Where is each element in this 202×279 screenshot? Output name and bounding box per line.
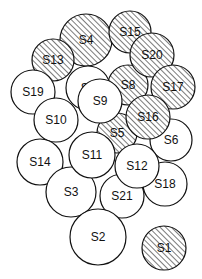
circle-label: S8: [121, 78, 136, 92]
circle-label: S12: [126, 159, 148, 173]
circle-s2: S2: [70, 209, 126, 265]
circle-label: S16: [137, 110, 159, 124]
circle-s11: S11: [69, 132, 115, 178]
circle-label: S3: [64, 185, 79, 199]
circle-label: S18: [154, 177, 176, 191]
circle-label: S9: [93, 94, 108, 108]
circle-s12: S12: [115, 144, 159, 188]
circle-label: S20: [141, 48, 163, 62]
circle-label: S15: [119, 25, 141, 39]
circle-label: S2: [91, 230, 106, 244]
circle-label: S17: [162, 80, 184, 94]
circle-label: S10: [45, 113, 67, 127]
circle-label: S1: [157, 241, 172, 255]
circle-s9: S9: [78, 79, 122, 123]
circle-label: S14: [29, 155, 51, 169]
circle-label: S11: [82, 148, 103, 162]
circle-label: S13: [42, 53, 64, 67]
circle-label: S19: [22, 85, 44, 99]
circles-group: S4S15S13S7S8S20S17S19S10S5S6S16S9S14S3S1…: [11, 11, 195, 270]
circle-label: S6: [164, 133, 179, 147]
circle-cluster-diagram: S4S15S13S7S8S20S17S19S10S5S6S16S9S14S3S1…: [0, 0, 202, 279]
circle-s16: S16: [126, 95, 170, 139]
circle-label: S21: [111, 189, 133, 203]
circle-label: S4: [79, 33, 94, 47]
circle-s10: S10: [34, 98, 78, 142]
circle-label: S5: [110, 126, 125, 140]
circle-s1: S1: [142, 226, 186, 270]
